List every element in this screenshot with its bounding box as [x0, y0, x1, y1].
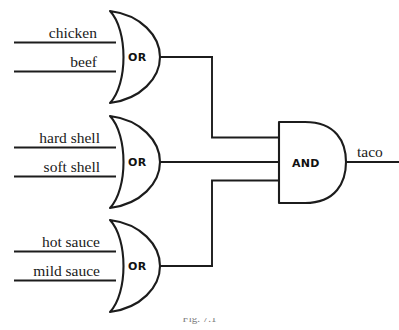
and-gate-taco[interactable]: AND [279, 122, 399, 203]
logic-diagram-canvas: OR OR OR AND [0, 0, 399, 330]
label-hot-sauce: hot sauce [42, 233, 100, 250]
figure-caption-text: Fig. 7.1 [0, 318, 399, 324]
figure-caption: Fig. 7.1 [0, 318, 399, 330]
or-gate-sauce-label: OR [128, 260, 147, 273]
logic-diagram-svg: OR OR OR AND [0, 0, 399, 330]
routing-wire-meat-to-and [212, 57, 279, 138]
label-chicken: chicken [49, 24, 97, 41]
or-gate-meat[interactable]: OR [14, 11, 213, 103]
routing-wire-sauce-to-and [212, 181, 279, 267]
or-gate-shell-label: OR [128, 156, 147, 169]
or-gate-meat-label: OR [128, 51, 147, 64]
label-beef: beef [70, 53, 98, 70]
label-soft-shell: soft shell [44, 158, 100, 175]
and-gate-label: AND [292, 157, 320, 170]
label-hard-shell: hard shell [39, 129, 100, 146]
label-taco-output: taco [357, 143, 383, 160]
label-mild-sauce: mild sauce [33, 262, 100, 279]
